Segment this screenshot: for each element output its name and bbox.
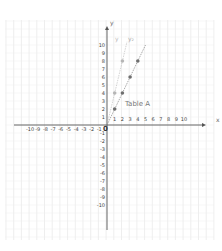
y-axis-arrow-icon — [105, 26, 109, 30]
x-tick-label: -4 — [74, 126, 79, 132]
y-tick-label: 10 — [99, 42, 105, 48]
y-tick-label: -8 — [100, 186, 105, 192]
data-point — [113, 107, 117, 111]
x-tick-label: 7 — [159, 116, 162, 122]
y-tick-label: 7 — [102, 66, 105, 72]
y-tick-label: -6 — [100, 170, 105, 176]
series-label-y2: y₂ — [128, 35, 135, 43]
coordinate-plane-chart: -10-9-8-7-6-5-4-3-2-112345678910-10-9-8-… — [0, 0, 222, 251]
x-tick-label: 8 — [167, 116, 170, 122]
table-a-annotation: Table A — [124, 100, 150, 108]
y-tick-label: 9 — [102, 50, 105, 56]
x-tick-label: -9 — [35, 126, 40, 132]
data-point — [121, 59, 125, 63]
x-tick-label: -5 — [66, 126, 71, 132]
data-point — [136, 59, 140, 63]
y-tick-label: -4 — [100, 154, 105, 160]
x-axis-arrow-icon — [202, 123, 206, 127]
x-tick-label: -2 — [89, 126, 94, 132]
y-tick-label: 4 — [102, 90, 105, 96]
x-tick-label: -7 — [51, 126, 56, 132]
data-point — [121, 91, 125, 95]
y-tick-label: 8 — [102, 58, 105, 64]
series-label-y: y — [115, 35, 119, 43]
x-tick-label: 3 — [129, 116, 132, 122]
series-1 — [107, 42, 127, 125]
x-tick-label: 5 — [144, 116, 147, 122]
data-point — [113, 91, 117, 95]
y-tick-label: -9 — [100, 194, 105, 200]
x-tick-label: 9 — [175, 116, 178, 122]
data-point — [128, 75, 132, 79]
y-tick-label: -10 — [97, 202, 105, 208]
y-tick-label: -7 — [100, 178, 105, 184]
series-group — [107, 42, 146, 125]
x-tick-label: 4 — [136, 116, 139, 122]
y-tick-label: 2 — [102, 106, 105, 112]
x-axis-label: x — [216, 116, 220, 123]
y-tick-label: -5 — [100, 162, 105, 168]
y-tick-label: -2 — [100, 138, 105, 144]
origin-label: 0 — [103, 125, 108, 133]
x-tick-label: -6 — [58, 126, 63, 132]
y-axis-label: y — [110, 19, 114, 27]
series-line — [107, 42, 127, 125]
x-tick-label: -3 — [81, 126, 86, 132]
y-tick-label: -3 — [100, 146, 105, 152]
y-tick-label: 1 — [102, 114, 105, 120]
x-tick-label: -10 — [26, 126, 34, 132]
x-tick-label: 1 — [113, 116, 116, 122]
x-tick-label: 10 — [181, 116, 187, 122]
x-tick-label: 2 — [121, 116, 124, 122]
y-tick-label: 6 — [102, 74, 105, 80]
y-tick-label: 5 — [102, 82, 105, 88]
x-tick-label: 6 — [152, 116, 155, 122]
y-tick-label: 3 — [102, 98, 105, 104]
x-tick-label: -8 — [43, 126, 48, 132]
